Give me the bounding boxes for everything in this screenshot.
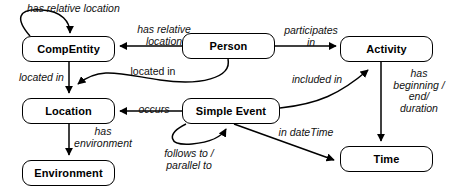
edge-label-participates-in: participates in bbox=[281, 25, 341, 48]
node-location-label: Location bbox=[45, 105, 92, 117]
node-environment-label: Environment bbox=[34, 167, 102, 179]
edge-label-has-beginning-end-duration: has beginning / end/ duration bbox=[388, 68, 450, 114]
node-activity-label: Activity bbox=[366, 43, 407, 55]
ontology-diagram: CompEntity Person Activity Location Simp… bbox=[0, 0, 452, 194]
edge-label-has-relative-location-self: has relative location bbox=[27, 3, 161, 15]
edge-label-in-datetime: in dateTime bbox=[272, 127, 340, 139]
node-activity[interactable]: Activity bbox=[340, 36, 433, 62]
edge-label-occurs: occurs bbox=[133, 104, 175, 116]
node-time[interactable]: Time bbox=[340, 146, 433, 172]
edge-label-located-in-person: located in bbox=[124, 66, 182, 78]
edge-simpleevent-self bbox=[172, 124, 226, 144]
node-simple-event-label: Simple Event bbox=[196, 105, 266, 117]
node-compentity-label: CompEntity bbox=[37, 43, 100, 55]
edge-label-included-in: included in bbox=[286, 74, 348, 86]
node-simple-event[interactable]: Simple Event bbox=[182, 98, 280, 124]
node-compentity[interactable]: CompEntity bbox=[22, 36, 115, 62]
edge-label-follows-to-parallel-to: follows to / parallel to bbox=[155, 148, 223, 171]
edge-label-located-in-compentity: located in bbox=[19, 72, 79, 84]
edge-label-has-environment: has environment bbox=[60, 126, 146, 149]
edge-label-has-relative-location: has relative location bbox=[124, 24, 204, 47]
node-time-label: Time bbox=[374, 153, 400, 165]
node-environment[interactable]: Environment bbox=[22, 160, 115, 186]
node-location[interactable]: Location bbox=[22, 98, 115, 124]
node-person-label: Person bbox=[210, 40, 248, 52]
